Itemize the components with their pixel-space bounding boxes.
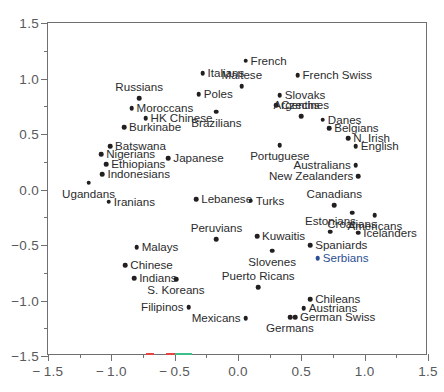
data-point[interactable] [86, 181, 91, 186]
x-axis-minor-tick [80, 354, 81, 358]
data-point-label: Icelanders [363, 227, 417, 239]
data-point[interactable] [295, 73, 300, 78]
data-point[interactable] [200, 71, 205, 76]
data-point-label: Peruvians [191, 223, 243, 235]
data-point[interactable] [107, 199, 112, 204]
x-axis-tick-label: 0.0 [228, 364, 248, 379]
data-point[interactable] [328, 229, 333, 234]
data-point[interactable] [243, 58, 248, 63]
data-point[interactable] [214, 237, 219, 242]
data-point-label: Turks [256, 195, 285, 207]
y-axis-minor-tick [44, 273, 48, 274]
data-point[interactable] [354, 144, 359, 149]
data-point-label: Germans [266, 322, 314, 334]
y-axis-minor-tick [44, 328, 48, 329]
data-point-label: English [361, 140, 399, 152]
y-axis-tick-label: −0.5 [11, 238, 39, 253]
data-point[interactable] [132, 276, 137, 281]
data-point[interactable] [243, 316, 248, 321]
data-point[interactable] [248, 198, 253, 203]
data-point[interactable] [354, 163, 359, 168]
data-point[interactable] [100, 172, 105, 177]
data-point-label: S. Koreans [147, 284, 204, 296]
data-point[interactable] [278, 93, 283, 98]
data-point-label: Mexicans [192, 312, 241, 324]
data-point-label: Poles [204, 88, 233, 100]
x-axis-tick [301, 354, 302, 361]
data-point[interactable] [270, 248, 275, 253]
y-axis-tick [41, 134, 48, 135]
data-point[interactable] [194, 197, 199, 202]
data-point[interactable] [129, 106, 134, 111]
data-point[interactable] [104, 162, 109, 167]
data-point-label: Indonesians [107, 168, 170, 180]
data-point[interactable] [174, 277, 179, 282]
data-point-label: Ugandans [62, 188, 115, 200]
data-point-label: Puerto Ricans [222, 271, 295, 283]
data-point-label: Lebanese [201, 194, 252, 206]
data-point-label: Filipinos [141, 301, 184, 313]
axis-color-speck [146, 353, 155, 355]
x-axis-tick-label: − 1.5 [33, 364, 64, 379]
x-axis-tick [175, 354, 176, 361]
data-point-label: Spaniards [315, 239, 367, 251]
data-point[interactable] [278, 143, 283, 148]
data-point[interactable] [293, 315, 298, 320]
y-axis-tick-label: −1.0 [11, 293, 39, 308]
x-axis-tick [365, 354, 366, 361]
axis-color-speck [166, 353, 175, 355]
data-point[interactable] [196, 92, 201, 97]
data-point-label: Argentines [274, 100, 329, 112]
data-point[interactable] [186, 305, 191, 310]
y-axis-minor-tick [44, 51, 48, 52]
data-point[interactable] [134, 245, 139, 250]
data-point-label: Slovenes [248, 256, 296, 268]
y-axis-tick [41, 301, 48, 302]
data-point[interactable] [255, 234, 260, 239]
data-point[interactable] [122, 125, 127, 130]
scatter-chart: − 1.5− 1.0− 0.50.00.51.01.51.51.00.50.0−… [0, 0, 444, 392]
data-point[interactable] [308, 243, 313, 248]
data-point-label: Indians [139, 273, 176, 285]
data-point[interactable] [299, 114, 304, 119]
data-point-label: Russians [115, 82, 163, 94]
data-point[interactable] [166, 156, 171, 161]
x-axis-minor-tick [270, 354, 271, 358]
data-point-label: New Zealanders [269, 170, 353, 182]
data-point-label: French [251, 55, 287, 67]
x-axis-tick-label: − 1.0 [96, 364, 127, 379]
data-point[interactable] [327, 126, 332, 131]
data-point-label: Serbians [323, 253, 369, 265]
x-axis-tick-label: − 0.5 [159, 364, 190, 379]
x-axis-tick [238, 354, 239, 361]
data-point[interactable] [332, 203, 337, 208]
y-axis-tick [41, 79, 48, 80]
data-point-label: Chinese [130, 259, 173, 271]
data-point[interactable] [356, 174, 361, 179]
data-point[interactable] [123, 263, 128, 268]
x-axis-minor-tick [333, 354, 334, 358]
x-axis-tick-label: 1.5 [418, 364, 438, 379]
data-point[interactable] [356, 230, 361, 235]
data-point[interactable] [99, 152, 104, 157]
y-axis-tick [41, 23, 48, 24]
data-point-label: Malays [142, 241, 179, 253]
y-axis-tick [41, 245, 48, 246]
data-point-label: French Swiss [303, 69, 373, 81]
data-point[interactable] [346, 136, 351, 141]
data-point[interactable] [137, 96, 142, 101]
x-axis-minor-tick [143, 354, 144, 358]
data-point[interactable] [316, 256, 321, 261]
data-point[interactable] [214, 110, 219, 115]
data-point-label: Japanese [173, 153, 223, 165]
data-point[interactable] [373, 213, 378, 218]
data-point-label: Estonians [305, 215, 356, 227]
x-axis-tick [48, 354, 49, 361]
data-point-label: Kuwaitis [262, 230, 305, 242]
data-point-label: Canadians [307, 188, 362, 200]
data-point[interactable] [240, 84, 245, 89]
data-point[interactable] [321, 117, 326, 122]
data-point[interactable] [288, 315, 293, 320]
data-point[interactable] [256, 285, 261, 290]
x-axis-tick [428, 354, 429, 361]
